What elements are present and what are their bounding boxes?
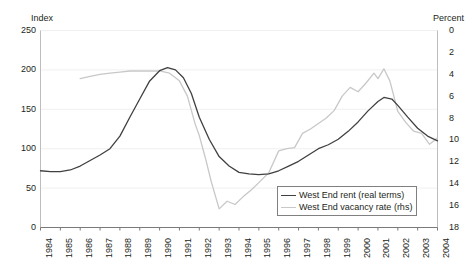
series-line-rent [41, 68, 438, 175]
legend-swatch-rent [281, 195, 296, 196]
legend-item: West End rent (real terms) [281, 189, 412, 201]
chart-legend: West End rent (real terms) West End vaca… [277, 186, 417, 216]
legend-swatch-vacancy [281, 207, 296, 208]
legend-label-vacancy: West End vacancy rate (rhs) [299, 202, 412, 212]
chart-container: Index Percent 050100150200250 0246810121… [0, 0, 473, 262]
plot-area [0, 0, 473, 262]
legend-label-rent: West End rent (real terms) [299, 190, 404, 200]
legend-item: West End vacancy rate (rhs) [281, 201, 412, 213]
